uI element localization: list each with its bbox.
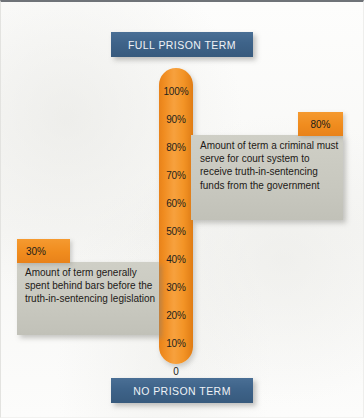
callout-upper-value-tab: 80% [298,112,343,136]
callout-upper-text: Amount of term a criminal must serve for… [200,139,340,192]
thermometer-bar [159,68,193,364]
callout-upper-value-label: 80% [310,119,330,130]
full-prison-term-label: FULL PRISON TERM [128,39,236,51]
no-prison-term-label: NO PRISON TERM [133,385,231,397]
infographic-figure: FULL PRISON TERM 100% 90% 80% 70% 60% 50… [0,0,364,418]
callout-lower-value-label: 30% [26,246,46,257]
no-prison-term-banner: NO PRISON TERM [111,378,253,403]
full-prison-term-banner: FULL PRISON TERM [111,32,253,57]
callout-lower-text: Amount of term generally spent behind ba… [25,266,157,306]
callout-lower-value-tab: 30% [17,239,70,263]
scale-tick-0: 0 [159,366,193,377]
